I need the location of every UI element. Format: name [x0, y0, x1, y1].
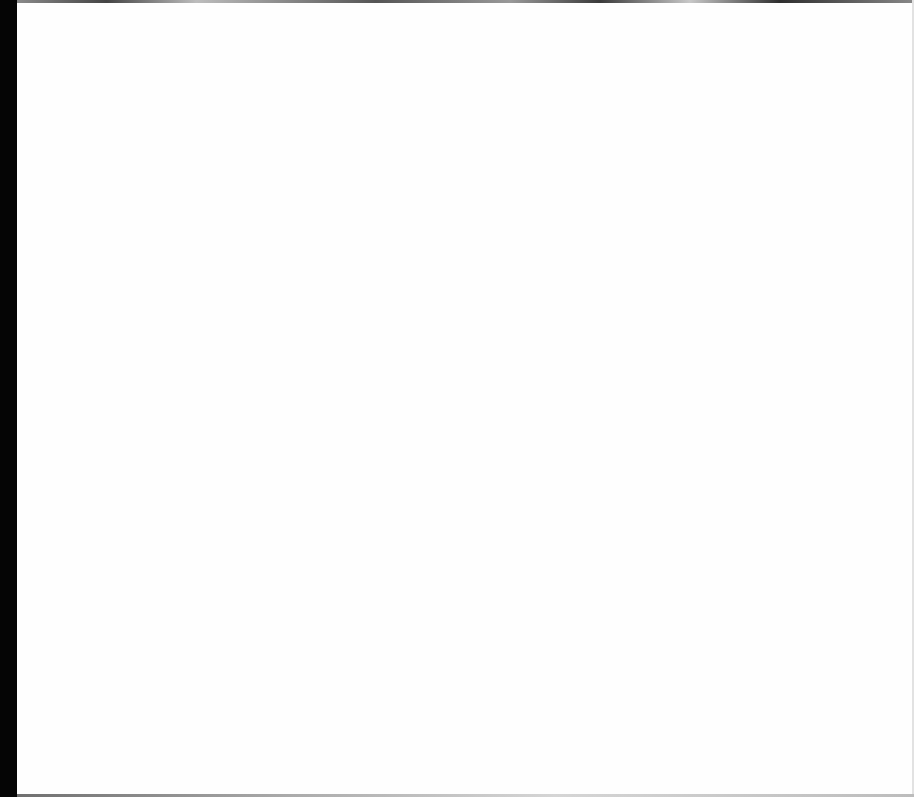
left-dark-border — [0, 0, 17, 797]
blank-sheet — [17, 3, 912, 794]
